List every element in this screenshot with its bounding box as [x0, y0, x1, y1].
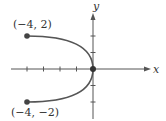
y-axis-arrow-icon — [91, 13, 96, 20]
point-origin — [90, 66, 96, 72]
y-axis-label: y — [92, 0, 100, 13]
x-axis-label: x — [153, 63, 160, 76]
point-bottom-label: (−4, −2) — [11, 106, 59, 119]
point-top — [24, 33, 30, 39]
graph-canvas: (−4, 2) (−4, −2) x y — [0, 0, 166, 121]
x-axis-arrow-icon — [144, 67, 151, 72]
point-bottom — [24, 99, 30, 105]
parabola-graph: (−4, 2) (−4, −2) x y — [0, 0, 166, 121]
point-top-label: (−4, 2) — [13, 18, 52, 31]
